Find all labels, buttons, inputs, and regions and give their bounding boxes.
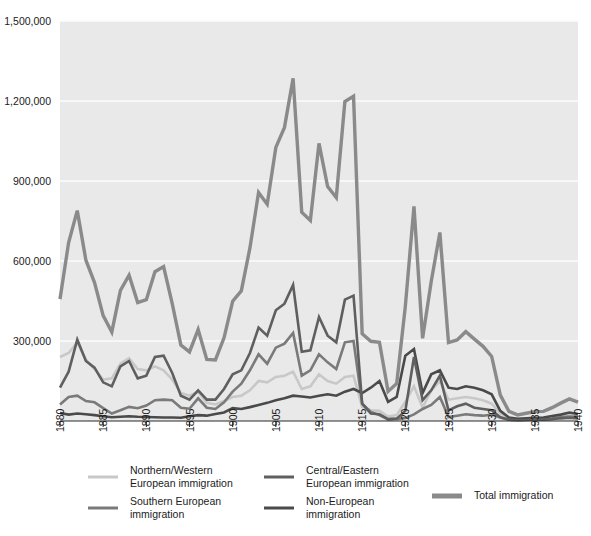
legend-label-non-european: Non-European: [306, 495, 374, 507]
x-axis-tick-label: 1890: [140, 408, 152, 432]
chart-canvas: 1880188518901895190019051910191519201925…: [0, 0, 591, 536]
legend-label-total: Total immigration: [474, 489, 554, 501]
x-axis-tick-label: 1910: [313, 408, 325, 432]
y-axis-tick-label: 600,000: [13, 255, 51, 267]
x-axis-tick-label: 1885: [97, 408, 109, 432]
x-axis-tick-label: 1900: [227, 408, 239, 432]
x-axis-tick-label: 1940: [572, 408, 584, 432]
y-axis-tick-label: 1,200,000: [4, 95, 51, 107]
legend-label-northern-western-line2: European immigration: [130, 477, 233, 489]
x-axis-tick-label: 1880: [54, 408, 66, 432]
immigration-line-chart: 1880188518901895190019051910191519201925…: [0, 0, 591, 536]
x-axis-tick-label: 1915: [356, 408, 368, 432]
x-axis-tick-label: 1920: [399, 408, 411, 432]
x-axis-tick-label: 1925: [443, 408, 455, 432]
legend-label-northern-western: Northern/Western: [130, 464, 213, 476]
x-axis-tick-label: 1905: [270, 408, 282, 432]
plot-area-background: [60, 21, 578, 421]
legend-label-non-european-line2: immigration: [306, 508, 360, 520]
y-axis-tick-label: 1,500,000: [4, 15, 51, 27]
y-axis-tick-label: 300,000: [13, 335, 51, 347]
y-axis-tick-label: 900,000: [13, 175, 51, 187]
x-axis-tick-label: 1935: [529, 408, 541, 432]
x-axis-tick-label: 1930: [486, 408, 498, 432]
legend-label-central-eastern: Central/Eastern: [306, 464, 379, 476]
legend-label-southern-line2: immigration: [130, 508, 184, 520]
x-axis-tick-label: 1895: [184, 408, 196, 432]
legend-label-southern: Southern European: [130, 495, 221, 507]
legend-label-central-eastern-line2: European immigration: [306, 477, 409, 489]
